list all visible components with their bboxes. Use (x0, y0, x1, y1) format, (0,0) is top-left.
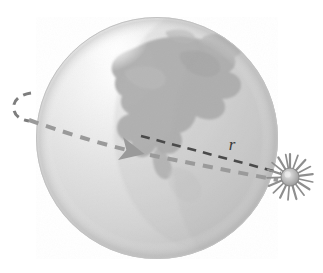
sun-core-highlight (285, 171, 291, 177)
earth-globe (36, 6, 298, 268)
orbit-tail-arc (14, 93, 31, 121)
orbit-diagram-figure: r (0, 0, 323, 273)
diagram-canvas: r (0, 0, 323, 273)
radius-label: r (229, 135, 236, 154)
globe-texture (36, 17, 278, 259)
sun-core (281, 168, 299, 186)
